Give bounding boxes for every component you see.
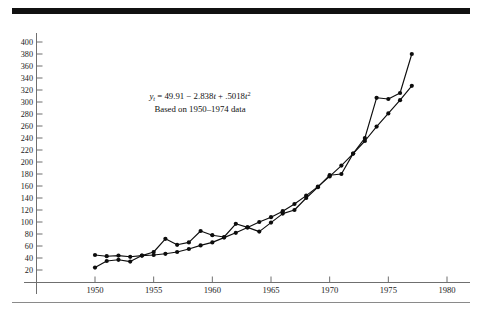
x-axis-ticks: 1950195519601965197019751980 — [86, 277, 455, 296]
data-point-fitted — [292, 202, 296, 206]
x-tick-label: 1980 — [438, 285, 455, 295]
data-point-actual — [105, 254, 109, 258]
data-point-fitted — [105, 259, 109, 263]
data-point-fitted — [269, 215, 273, 219]
data-point-fitted — [316, 185, 320, 189]
data-point-fitted — [152, 253, 156, 257]
chart-canvas: 2040608010012014016018020022024026028030… — [0, 0, 482, 313]
data-point-fitted — [281, 209, 285, 213]
data-point-fitted — [163, 252, 167, 256]
x-tick-label: 1950 — [86, 285, 103, 295]
data-point-fitted — [328, 174, 332, 178]
x-tick-label: 1965 — [262, 285, 279, 295]
y-tick-label: 240 — [21, 134, 33, 143]
equation-body: = 49.91 − 2.838 — [155, 91, 214, 101]
data-point-fitted — [187, 247, 191, 251]
data-point-actual — [257, 230, 261, 234]
x-tick-label: 1970 — [321, 285, 338, 295]
y-tick-label: 200 — [21, 158, 33, 167]
data-point-actual — [116, 254, 120, 258]
x-tick-label: 1960 — [204, 285, 221, 295]
data-point-actual — [410, 52, 414, 56]
chart-svg: 2040608010012014016018020022024026028030… — [0, 0, 482, 313]
equation-exponent: 2 — [247, 90, 250, 97]
data-point-actual — [163, 237, 167, 241]
equation-middle: + .5018 — [216, 91, 246, 101]
data-point-actual — [187, 240, 191, 244]
y-tick-label: 80 — [25, 230, 33, 239]
data-point-actual — [128, 255, 132, 259]
data-point-fitted — [222, 236, 226, 240]
data-point-actual — [339, 172, 343, 176]
data-point-actual — [398, 91, 402, 95]
y-tick-label: 280 — [21, 110, 33, 119]
data-point-fitted — [363, 139, 367, 143]
y-tick-label: 380 — [21, 50, 33, 59]
data-point-fitted — [93, 266, 97, 270]
data-series-group — [93, 52, 414, 270]
data-point-fitted — [116, 258, 120, 262]
y-tick-label: 320 — [21, 86, 33, 95]
y-tick-label: 60 — [25, 242, 33, 251]
data-point-fitted — [245, 225, 249, 229]
y-axis: 2040608010012014016018020022024026028030… — [21, 33, 43, 294]
y-tick-label: 20 — [25, 266, 33, 275]
data-point-actual — [375, 96, 379, 100]
y-tick-label: 160 — [21, 182, 33, 191]
y-tick-label: 180 — [21, 170, 33, 179]
series-line-fitted — [95, 86, 412, 268]
data-point-fitted — [128, 260, 132, 264]
y-tick-label: 120 — [21, 206, 33, 215]
data-point-actual — [93, 253, 97, 257]
y-axis-ticks: 2040608010012014016018020022024026028030… — [21, 38, 43, 275]
data-point-actual — [386, 97, 390, 101]
data-point-fitted — [210, 240, 214, 244]
data-point-fitted — [351, 152, 355, 156]
y-tick-label: 400 — [21, 38, 33, 47]
data-point-actual — [175, 243, 179, 247]
data-point-fitted — [375, 125, 379, 129]
equation-line: yt = 49.91 − 2.838t + .5018t2 — [148, 90, 250, 102]
y-tick-label: 140 — [21, 194, 33, 203]
y-tick-label: 40 — [25, 254, 33, 263]
data-point-fitted — [398, 98, 402, 102]
y-tick-label: 300 — [21, 98, 33, 107]
data-point-fitted — [175, 250, 179, 254]
data-point-fitted — [304, 194, 308, 198]
data-point-actual — [234, 222, 238, 226]
data-point-actual — [199, 229, 203, 233]
figure-root: 2040608010012014016018020022024026028030… — [0, 0, 482, 313]
data-point-fitted — [410, 84, 414, 88]
x-tick-label: 1975 — [380, 285, 397, 295]
data-point-actual — [269, 221, 273, 225]
y-tick-label: 360 — [21, 62, 33, 71]
data-point-fitted — [234, 231, 238, 235]
data-point-fitted — [257, 220, 261, 224]
series-line-actual — [95, 54, 412, 257]
y-tick-label: 220 — [21, 146, 33, 155]
data-point-fitted — [386, 111, 390, 115]
y-tick-label: 100 — [21, 218, 33, 227]
y-tick-label: 340 — [21, 74, 33, 83]
equation-subtitle: Based on 1950–1974 data — [154, 104, 245, 114]
y-tick-label: 260 — [21, 122, 33, 131]
data-point-fitted — [199, 243, 203, 247]
x-axis: 1950195519601965197019751980 — [24, 277, 470, 296]
data-point-actual — [292, 208, 296, 212]
data-point-fitted — [339, 164, 343, 168]
x-tick-label: 1955 — [145, 285, 162, 295]
data-point-actual — [210, 233, 214, 237]
data-point-fitted — [140, 254, 144, 258]
equation-annotation: yt = 49.91 − 2.838t + .5018t2 Based on 1… — [148, 90, 250, 114]
